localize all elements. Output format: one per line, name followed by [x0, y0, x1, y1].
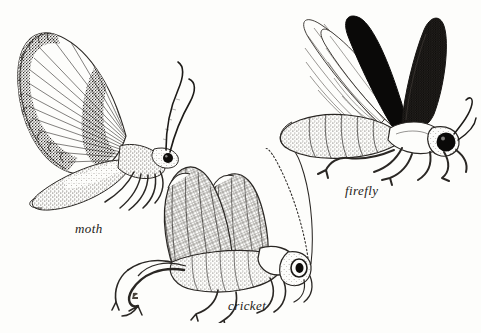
label-cricket: cricket — [228, 298, 266, 314]
firefly-antennae — [454, 98, 476, 140]
label-firefly: firefly — [345, 183, 378, 199]
firefly-illustration — [272, 10, 477, 190]
moth-antennae — [166, 62, 194, 152]
figure-firefly — [272, 10, 477, 190]
firefly-elytron-right — [402, 18, 446, 131]
artist-mark — [129, 290, 143, 304]
firefly-eye — [437, 133, 456, 152]
insect-plate: moth cricket firefly — [0, 0, 481, 333]
label-moth: moth — [75, 221, 103, 237]
cricket-eye — [291, 259, 307, 277]
